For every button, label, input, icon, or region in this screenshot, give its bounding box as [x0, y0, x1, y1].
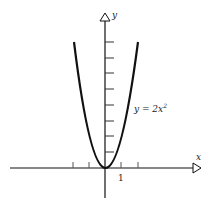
- curve-label: y = 2x2: [133, 102, 167, 114]
- y-axis-arrow-icon: [100, 13, 110, 21]
- x-axis-label: x: [196, 152, 201, 162]
- x-axis-arrow-icon: [193, 163, 201, 173]
- parabola-chart: y x 1 y = 2x2: [0, 0, 213, 203]
- y-ticks: [105, 42, 114, 152]
- y-axis-label: y: [111, 10, 118, 20]
- x-tick-label-1: 1: [118, 173, 124, 183]
